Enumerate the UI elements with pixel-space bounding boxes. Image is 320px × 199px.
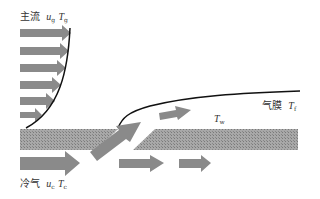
coolant-u-sub: c: [51, 183, 54, 190]
mainstream-u-sub: g: [51, 16, 55, 23]
wall-T-sub: w: [220, 118, 225, 125]
film-arrow: [159, 106, 191, 120]
coolant-arrows: [20, 151, 211, 176]
mainstream-label: 主流 ug Tg: [20, 11, 68, 26]
coolant-T-sub: c: [63, 183, 66, 190]
film-label: 气膜 Tf: [262, 100, 296, 115]
film-text: 气膜: [262, 100, 282, 111]
coolant-label: 冷气 uc Tc: [20, 178, 67, 193]
coolant-text: 冷气: [20, 178, 40, 189]
mainstream-T-sub: g: [64, 16, 68, 23]
plate-downstream: [133, 129, 298, 150]
wall-temperature-label: Tw: [214, 113, 225, 128]
mainstream-text: 主流: [20, 11, 40, 22]
film-T-sub: f: [294, 105, 296, 112]
